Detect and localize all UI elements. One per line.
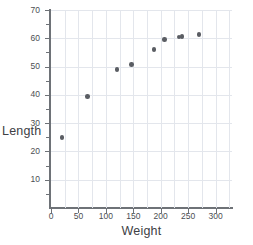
y-axis-minor-tick: [46, 137, 50, 138]
y-axis-minor-tick: [46, 24, 50, 25]
y-axis-minor-tick: [46, 109, 50, 110]
gridline-vertical: [65, 10, 66, 208]
data-point: [115, 67, 120, 72]
y-axis-minor-tick: [46, 166, 50, 167]
gridline-vertical: [229, 10, 230, 208]
y-axis-minor-tick: [46, 81, 50, 82]
gridline-vertical: [120, 10, 121, 208]
x-axis-tick-label: 200: [146, 212, 176, 221]
x-axis-tick-label: 100: [91, 212, 121, 221]
x-axis-tick-label: 300: [201, 212, 231, 221]
gridline-vertical: [174, 10, 175, 208]
x-axis-title: Weight: [51, 224, 232, 238]
gridline-vertical: [133, 10, 134, 208]
gridline-vertical: [147, 10, 148, 208]
gridline-vertical: [92, 10, 93, 208]
x-axis-tick-label: 250: [173, 212, 203, 221]
y-axis-tick-label: 40: [14, 90, 40, 99]
data-point: [162, 37, 167, 42]
scatter-plot-figure: 10203040506070050100150200250300 Length …: [0, 0, 253, 245]
y-axis-tick: [45, 38, 50, 39]
y-axis-tick-label: 50: [14, 62, 40, 71]
gridline-vertical: [202, 10, 203, 208]
clipped-footer-text: [0, 241, 253, 245]
y-axis-tick: [45, 10, 50, 11]
y-axis-tick-label: 70: [14, 6, 40, 15]
data-point: [60, 135, 65, 140]
y-axis-title: Length: [2, 124, 46, 138]
x-axis-tick-label: 50: [63, 212, 93, 221]
data-point: [129, 62, 134, 67]
y-axis-minor-tick: [46, 194, 50, 195]
gridline-vertical: [78, 10, 79, 208]
y-axis-tick: [45, 151, 50, 152]
gridline-vertical: [106, 10, 107, 208]
x-axis-tick-label: 0: [36, 212, 66, 221]
y-axis-tick: [45, 67, 50, 68]
x-axis-tick-label: 150: [118, 212, 148, 221]
y-axis-tick-label: 60: [14, 34, 40, 43]
y-axis-tick: [45, 180, 50, 181]
x-axis-line: [49, 207, 233, 209]
y-axis-tick-label: 10: [14, 175, 40, 184]
gridline-vertical: [216, 10, 217, 208]
y-axis-minor-tick: [46, 52, 50, 53]
y-axis-tick: [45, 95, 50, 96]
gridline-vertical: [188, 10, 189, 208]
data-point: [85, 94, 90, 99]
y-axis-tick-label: 20: [14, 147, 40, 156]
